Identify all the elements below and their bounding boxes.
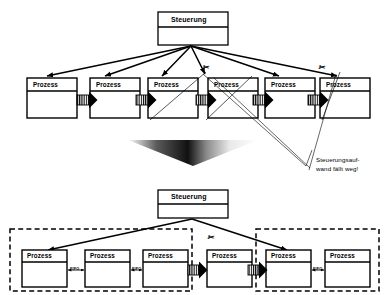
diagram-vector-layer [0, 0, 388, 295]
top-process-label-2: Prozess [96, 81, 121, 88]
bottom-process-label-3: Prozess [148, 252, 173, 259]
top-process-label-5: Prozess [271, 81, 296, 88]
top-process-label-6: Prozess [326, 81, 351, 88]
fifo-label-1: FIFO [70, 267, 79, 271]
scissors-cut-icon-3: ✂ [207, 233, 214, 242]
transition-funnel [128, 140, 258, 166]
annotation-line-2: wand fällt weg! [316, 165, 358, 174]
scissors-cut-icon-1: ✂ [202, 63, 209, 72]
annotation-line-1: Steuerungsauf- [316, 156, 360, 165]
bottom-process-label-1: Prozess [27, 252, 52, 259]
bottom-process-label-6: Prozess [330, 252, 355, 259]
bottom-process-label-5: Prozess [271, 252, 296, 259]
bottom-control-arrows [48, 219, 287, 250]
bottom-process-label-2: Prozess [90, 252, 115, 259]
top-control-arrows [47, 46, 337, 76]
diagram-canvas: Steuerung Prozess Prozess Prozess Prozes… [0, 0, 388, 295]
bottom-process-label-4: Prozess [212, 252, 237, 259]
top-process-label-4: Prozess [214, 81, 239, 88]
top-process-label-1: Prozess [33, 81, 58, 88]
top-process-label-3: Prozess [154, 81, 179, 88]
bottom-controller-label: Steuerung [171, 193, 207, 200]
fifo-label-3: FIFO [313, 267, 322, 271]
top-controller-label: Steuerung [171, 16, 207, 23]
fifo-label-2: FIFO [132, 267, 141, 271]
scissors-cut-icon-2: ✂ [318, 63, 325, 72]
